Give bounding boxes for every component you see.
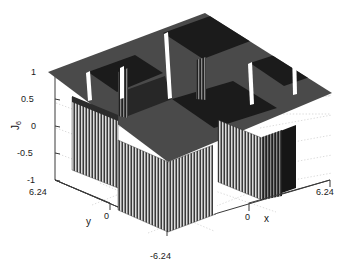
y-axis-label: y — [86, 216, 91, 227]
surface-plot-svg — [0, 0, 355, 277]
z-axis-label-subscript: 6 — [15, 121, 22, 125]
z-axis — [55, 72, 60, 181]
z-tick-0: 0 — [31, 121, 36, 131]
z-tick-0-5: 0.5 — [21, 94, 34, 104]
surface-wall-far-right — [262, 130, 282, 200]
z-axis-label: J6 — [10, 121, 21, 130]
x-tick-mid: 0 — [245, 212, 250, 222]
z-tick-neg-1: -1 — [27, 175, 35, 185]
figure-canvas: 1 0.5 0 -0.5 -1 6.24 0 -6.24 0 6.24 x y … — [0, 0, 355, 277]
y-tick-max: 6.24 — [29, 187, 47, 197]
x-axis-label: x — [264, 213, 269, 224]
x-tick-max: 6.24 — [316, 187, 334, 197]
z-tick-1: 1 — [31, 67, 36, 77]
surface-wall-right — [218, 120, 262, 200]
z-tick-neg-0-5: -0.5 — [17, 148, 33, 158]
y-tick-mid: 0 — [104, 211, 109, 221]
z-axis-label-base: J — [10, 125, 21, 130]
y-tick-min: -6.24 — [150, 251, 171, 261]
